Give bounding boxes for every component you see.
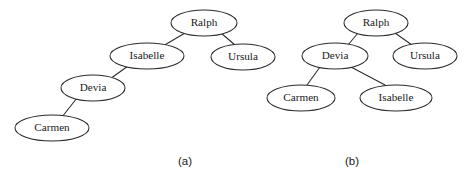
tree-edge [307,67,320,85]
node-label: Ralph [363,16,390,28]
tree-node[interactable]: Devia [302,43,368,69]
tree-edge [221,33,235,45]
tree-diagram-figure: RalphIsabelleUrsulaDeviaCarmenRalphDevia… [0,0,476,183]
node-label: Devia [322,49,349,61]
node-label: Ursula [410,49,440,61]
tree-edge [62,98,77,117]
diagram-caption: (a) [178,155,192,167]
tree-node[interactable]: Isabelle [110,43,184,69]
tree-node[interactable]: Isabelle [360,85,432,111]
tree-node[interactable]: Carmen [267,85,335,111]
tree-edge [395,33,412,45]
node-label: Devia [80,81,107,93]
diagram-caption: (b) [345,155,359,167]
tree-edge [163,33,185,46]
tree-node[interactable]: Ralph [171,10,237,36]
tree-node[interactable]: Ursula [211,44,275,70]
node-label: Carmen [283,91,319,103]
node-label: Ralph [191,16,218,28]
node-layer: RalphIsabelleUrsulaDeviaCarmenRalphDevia… [15,10,457,141]
tree-edge [351,67,385,85]
tree-node[interactable]: Carmen [15,115,89,141]
tree-edge [348,33,358,45]
tree-edge [110,66,128,79]
tree-node[interactable]: Ursula [393,43,457,69]
caption-layer: (a)(b) [178,155,359,167]
node-label: Carmen [34,121,70,133]
figure-root: RalphIsabelleUrsulaDeviaCarmenRalphDevia… [0,0,476,183]
node-label: Isabelle [379,91,414,103]
node-label: Ursula [228,50,258,62]
tree-node[interactable]: Ralph [344,10,408,36]
node-label: Isabelle [130,49,165,61]
tree-node[interactable]: Devia [61,75,125,101]
